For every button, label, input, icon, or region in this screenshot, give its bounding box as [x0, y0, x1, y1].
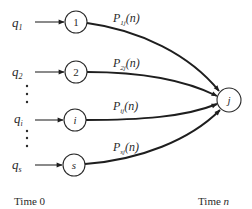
- input-q2: q2: [12, 64, 23, 81]
- svg-text:qi: qi: [14, 111, 23, 128]
- edge-label-2j: P2j(n): [112, 56, 140, 72]
- svg-text:i: i: [73, 114, 76, 126]
- edge-label-sj: Psj(n): [112, 140, 139, 156]
- svg-text:2: 2: [73, 66, 79, 78]
- node-2: 2: [65, 61, 87, 83]
- input-qi: qi: [14, 111, 23, 128]
- svg-text:1: 1: [73, 16, 79, 28]
- node-j: j: [217, 88, 241, 112]
- edge-i-to-j: [86, 104, 217, 120]
- transition-diagram: q1 q2 qi qs P1j(n) P2j(n) Pij(n) Psj(n) …: [0, 0, 252, 209]
- svg-text:s: s: [72, 159, 76, 171]
- svg-text:q1: q1: [12, 15, 23, 32]
- ellipsis-dots-upper: [26, 85, 28, 103]
- time-start-label: Time 0: [14, 195, 46, 207]
- svg-text:qs: qs: [12, 157, 22, 174]
- input-q1: q1: [12, 15, 23, 32]
- node-s: s: [63, 154, 85, 176]
- svg-text:q2: q2: [12, 64, 23, 81]
- node-1: 1: [65, 11, 87, 33]
- input-qs: qs: [12, 157, 22, 174]
- node-i: i: [64, 109, 86, 131]
- edge-label-ij: Pij(n): [112, 99, 138, 115]
- edge-2-to-j: [87, 72, 217, 96]
- edge-label-1j: P1j(n): [112, 11, 140, 27]
- time-end-label: Time n: [198, 195, 230, 207]
- ellipsis-dots-lower: [26, 130, 28, 147]
- edge-1-to-j: [87, 23, 219, 91]
